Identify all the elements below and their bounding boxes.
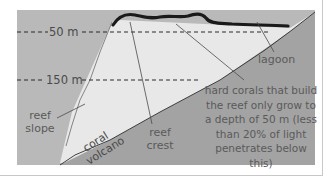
note-line-6: this) [202,156,320,171]
hard-corals-note: hard corals that build the reef only gro… [202,83,320,170]
note-line-1: hard corals that build [202,83,320,98]
reef-slope-label: reef slope [20,110,60,135]
note-line-2: the reef only grow to [202,98,320,113]
note-line-3: a depth of 50 m (less [202,112,320,127]
reef-slope-line-2: slope [20,123,60,136]
depth-label-50m: 50 m [49,26,79,38]
depth-label-150m: 150 m [46,74,83,86]
reef-crest-label: reef crest [142,127,178,152]
note-line-5: penetrates below [202,141,320,156]
reef-crest-line-1: reef [142,127,178,140]
reef-slope-line-1: reef [20,110,60,123]
reef-crest-line-2: crest [142,140,178,153]
note-line-4: than 20% of light [202,127,320,142]
lagoon-label: lagoon [258,54,295,67]
